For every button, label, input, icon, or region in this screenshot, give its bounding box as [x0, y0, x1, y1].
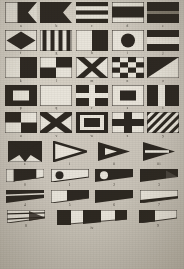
flag-label-foxtrot: f	[20, 51, 21, 55]
flag-label-quebec: q	[55, 106, 57, 110]
flag-cell-oscar[interactable]: o	[145, 57, 181, 83]
pennant-cell-one[interactable]: 1	[50, 169, 90, 187]
flag-cell-uniform[interactable]: u	[3, 112, 39, 138]
flag-label-xray: x	[127, 134, 129, 138]
flag-xray-figure	[112, 112, 144, 133]
flag-india-figure	[112, 30, 144, 51]
numeral-eight-figure	[7, 210, 45, 223]
flag-label-pennant-two: ii	[113, 162, 115, 166]
flag-cell-kilo[interactable]: k	[3, 57, 39, 83]
flag-cell-foxtrot[interactable]: f	[3, 30, 39, 56]
numeral-two-figure	[95, 169, 133, 182]
flag-zulu-figure	[8, 141, 42, 162]
flag-label-alpha: a	[20, 24, 22, 28]
flag-cell-golf[interactable]: g	[39, 30, 75, 56]
pennant-cell-seven[interactable]: 7	[139, 190, 179, 208]
numeral-three-figure	[140, 169, 178, 182]
pennant-cell-five[interactable]: 5	[50, 190, 90, 208]
signal-flag-plate: a b c	[0, 0, 184, 269]
flag-label-bravo: b	[55, 24, 57, 28]
numeral-seven-figure	[140, 190, 178, 203]
flag-cell-echo[interactable]: e	[145, 2, 181, 28]
flag-cell-papa[interactable]: p	[3, 85, 39, 111]
flag-label-november: n	[127, 79, 129, 83]
numeral-six-figure	[95, 190, 133, 203]
flag-label-whiskey: w	[91, 134, 94, 138]
flag-label-kilo: k	[20, 79, 22, 83]
pennant-label-two: 2	[113, 183, 115, 187]
flag-november-figure	[112, 57, 144, 78]
flag-foxtrot-figure	[5, 30, 37, 51]
pennant-row-numerals-0-3: 0 1 2	[0, 166, 184, 187]
flag-label-charlie: c	[91, 24, 93, 28]
flag-cell-india[interactable]: i	[110, 30, 146, 56]
flag-yankee-figure	[147, 112, 179, 133]
flag-cell-lima[interactable]: l	[39, 57, 75, 83]
flag-label-mike: m	[90, 79, 93, 83]
flag-cell-juliett[interactable]: j	[145, 30, 181, 56]
flag-cell-sierra[interactable]: s	[110, 85, 146, 111]
pennant-label-nine: 9	[157, 224, 159, 228]
flag-juliett-figure	[147, 30, 179, 51]
pennant-three-figure	[142, 141, 176, 162]
flag-oscar-figure	[147, 57, 179, 78]
pennant-one-figure	[53, 141, 87, 162]
flag-echo-figure	[147, 2, 179, 23]
flag-cell-pennant-two[interactable]: ii	[95, 141, 133, 167]
flag-cell-quebec[interactable]: q	[39, 85, 75, 111]
pennant-cell-zero[interactable]: 0	[5, 169, 45, 187]
flag-cell-whiskey[interactable]: w	[74, 112, 110, 138]
flag-uniform-figure	[5, 112, 37, 133]
flag-cell-victor[interactable]: v	[39, 112, 75, 138]
flag-row-letter-z-and-pennants: z i ii	[0, 138, 184, 167]
flag-whiskey-figure	[76, 112, 108, 133]
pennant-row-numerals-8-9: 8 iv 9	[0, 207, 184, 230]
flag-alpha-figure	[5, 2, 37, 23]
pennant-cell-four[interactable]: 4	[5, 190, 45, 208]
flag-cell-delta[interactable]: d	[110, 2, 146, 28]
flag-cell-november[interactable]: n	[110, 57, 146, 83]
flag-cell-xray[interactable]: x	[110, 112, 146, 138]
flag-row-letters-k-o: k l m	[0, 55, 184, 83]
flag-golf-figure	[40, 30, 72, 51]
flag-romeo-figure	[76, 85, 108, 106]
flag-lima-figure	[40, 57, 72, 78]
numeral-four-figure	[6, 190, 44, 203]
flag-label-romeo: r	[91, 106, 92, 110]
flag-mike-figure	[76, 57, 108, 78]
pennant-cell-six[interactable]: 6	[94, 190, 134, 208]
flag-label-pennant-one: i	[69, 162, 70, 166]
flag-row-letters-u-y: u v w	[0, 110, 184, 138]
flag-label-golf: g	[55, 51, 57, 55]
numeral-one-figure	[51, 169, 89, 182]
pennant-cell-eight[interactable]: 8	[6, 210, 46, 228]
pennant-label-four: 4	[24, 203, 26, 207]
pennant-cell-two[interactable]: 2	[94, 169, 134, 187]
flag-cell-hotel[interactable]: h	[74, 30, 110, 56]
flag-row-letters-a-e: a b c	[0, 0, 184, 28]
flag-papa-figure	[5, 85, 37, 106]
flag-kilo-figure	[5, 57, 37, 78]
flag-label-uniform: u	[20, 134, 22, 138]
pennant-cell-answering[interactable]: iv	[56, 210, 128, 230]
flag-cell-mike[interactable]: m	[74, 57, 110, 83]
flag-cell-charlie[interactable]: c	[74, 2, 110, 28]
flag-label-delta: d	[127, 24, 129, 28]
flag-sierra-figure	[112, 85, 144, 106]
flag-cell-romeo[interactable]: r	[74, 85, 110, 111]
pennant-label-seven: 7	[158, 203, 160, 207]
pennant-cell-three[interactable]: 3	[139, 169, 179, 187]
numeral-five-figure	[51, 190, 89, 203]
pennant-label-zero: 0	[24, 183, 26, 187]
flag-cell-pennant-one[interactable]: i	[51, 141, 89, 167]
flag-label-echo: e	[162, 24, 164, 28]
pennant-label-three: 3	[158, 183, 160, 187]
flag-bravo-figure	[40, 2, 72, 23]
flag-cell-bravo[interactable]: b	[39, 2, 75, 28]
pennant-cell-nine[interactable]: 9	[138, 210, 178, 228]
flag-cell-tango[interactable]: t	[145, 85, 181, 111]
flag-cell-yankee[interactable]: y	[145, 112, 181, 138]
flag-cell-pennant-three[interactable]: iii	[140, 141, 178, 167]
flag-cell-zulu[interactable]: z	[6, 141, 44, 167]
flag-cell-alpha[interactable]: a	[3, 2, 39, 28]
